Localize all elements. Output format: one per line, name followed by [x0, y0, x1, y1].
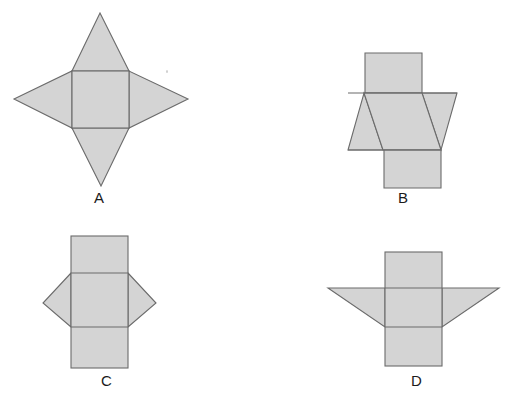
- option-c-shape: [43, 236, 156, 368]
- option-a-shape: [14, 13, 188, 186]
- figure-canvas: A B C D: [0, 0, 508, 402]
- option-c-rectangle: [71, 236, 128, 368]
- geometry-figure: [0, 0, 508, 402]
- option-label-a: A: [94, 189, 104, 206]
- option-a-triangle-left: [14, 71, 72, 128]
- option-c-triangle-right: [128, 273, 156, 327]
- speck-dot: [166, 70, 168, 73]
- option-label-d: D: [411, 372, 422, 389]
- option-a-triangle-right: [129, 71, 188, 128]
- option-d-rectangle: [385, 252, 442, 366]
- option-a-triangle-bottom: [72, 128, 129, 186]
- option-b-shape: [348, 53, 457, 188]
- option-d-shape: [328, 252, 499, 366]
- option-c-triangle-left: [43, 273, 71, 327]
- option-label-c: C: [101, 372, 112, 389]
- option-label-b: B: [398, 189, 408, 206]
- option-a-square: [72, 71, 129, 128]
- option-a-triangle-top: [72, 13, 129, 71]
- option-d-triangle-right: [442, 288, 499, 327]
- option-b-square-bottom: [384, 150, 441, 188]
- option-d-triangle-left: [328, 288, 385, 327]
- option-b-square-top: [365, 53, 422, 93]
